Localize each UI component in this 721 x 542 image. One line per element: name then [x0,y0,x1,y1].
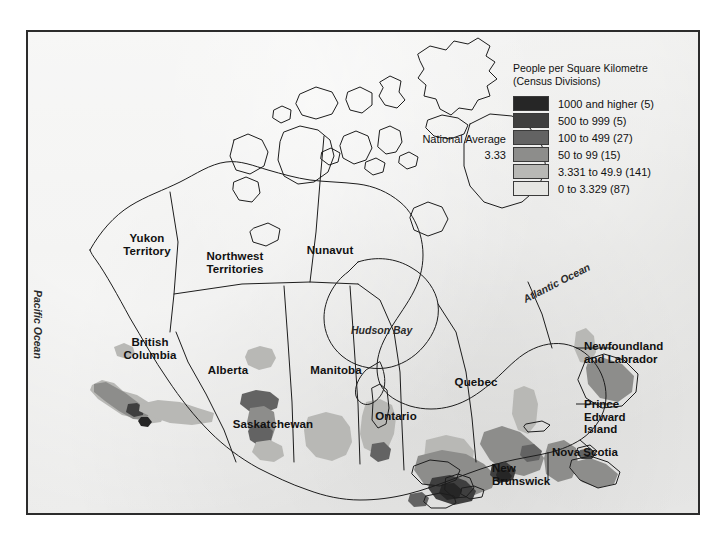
shading-alberta-south [252,440,284,462]
legend-swatch-500-to-999 [513,113,549,128]
legend-row: 50 to 99 (15) [513,146,698,163]
shading-nova-scotia [572,458,618,488]
legend-swatch-0-to-3-329 [513,181,549,196]
province-label-alberta: Alberta [190,364,266,377]
island-bathurst [346,87,372,113]
legend-label-1000-and-higher: 1000 and higher (5) [558,98,654,110]
legend-swatch-3-331-to-49-9 [513,164,549,179]
map-figure-frame: Yukon Territory Northwest Territories Nu… [26,30,700,515]
legend-label-500-to-999: 500 to 999 (5) [558,115,627,127]
province-label-quebec: Quebec [440,376,512,389]
border-nunavut-nwt [310,136,324,282]
island-melville [296,87,338,119]
legend-label-50-to-99: 50 to 99 (15) [558,149,620,161]
national-average-annotation: National Average 3.33 [376,132,506,163]
shading-quebec-north [512,386,538,434]
legend-row: 100 to 499 (27) [513,129,698,146]
legend-row: 3.331 to 49.9 (141) [513,163,698,180]
province-label-new-brunswick: New Brunswick [492,462,568,487]
border-alberta-sask [284,286,294,462]
province-label-yukon: Yukon Territory [110,232,184,257]
hudson-bay-shore [324,259,438,369]
province-label-nunavut: Nunavut [290,244,370,257]
province-label-prince-edward-island: Prince Edward Island [584,398,656,436]
legend-row: 500 to 999 (5) [513,112,698,129]
province-label-nova-scotia: Nova Scotia [552,446,650,459]
legend-swatch-50-to-99 [513,147,549,162]
province-label-manitoba: Manitoba [294,364,378,377]
province-label-saskatchewan: Saskatchewan [218,418,328,431]
map-legend: People per Square Kilometre (Census Divi… [513,62,698,197]
island-small-a [273,106,291,123]
island-axel-heiberg [379,76,405,108]
island-southampton [410,202,448,236]
island-ellesmere [418,38,497,115]
legend-swatch-1000-and-higher [513,96,549,111]
water-label-hudson-bay: Hudson Bay [351,324,412,336]
legend-label-0-to-3-329: 0 to 3.329 (87) [558,183,630,195]
legend-row: 1000 and higher (5) [513,95,698,112]
province-label-british-columbia: British Columbia [108,336,192,361]
province-label-ontario: Ontario [358,410,434,423]
legend-row: 0 to 3.329 (87) [513,180,698,197]
water-label-pacific-ocean: Pacific Ocean [32,290,44,359]
border-yukon-nwt [170,192,178,332]
shading-windsor [408,492,429,507]
legend-label-3-331-to-49-9: 3.331 to 49.9 (141) [558,166,651,178]
great-bear-lake [233,177,260,202]
great-slave-lake [250,223,280,246]
island-small-b [321,148,340,165]
province-label-northwest-territories: Northwest Territories [186,250,284,275]
legend-label-100-to-499: 100 to 499 (27) [558,132,633,144]
legend-swatch-100-to-499 [513,130,549,145]
island-prince-of-wales [340,131,372,164]
province-label-newfoundland-and-labrador: Newfoundland and Labrador [584,340,696,365]
legend-title: People per Square Kilometre (Census Divi… [513,62,698,88]
